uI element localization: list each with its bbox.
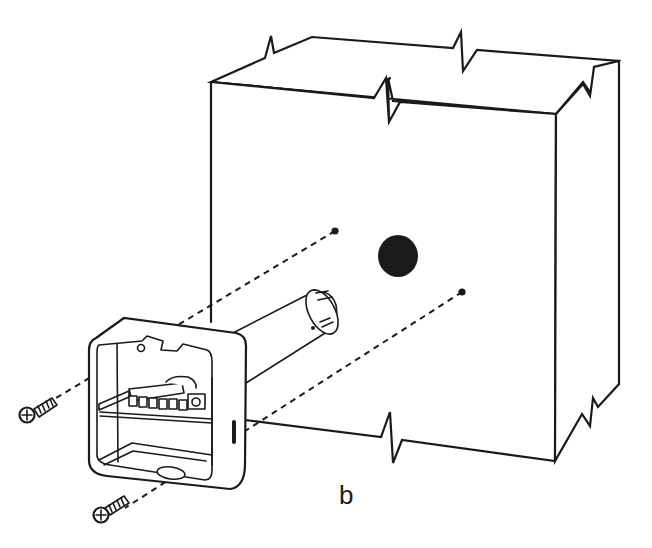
figure-label: b bbox=[339, 480, 353, 511]
installation-diagram bbox=[0, 0, 652, 548]
sensor-housing bbox=[89, 318, 246, 489]
wall-hole bbox=[378, 235, 418, 277]
screw-lower bbox=[94, 496, 130, 523]
screw-upper bbox=[20, 398, 58, 423]
